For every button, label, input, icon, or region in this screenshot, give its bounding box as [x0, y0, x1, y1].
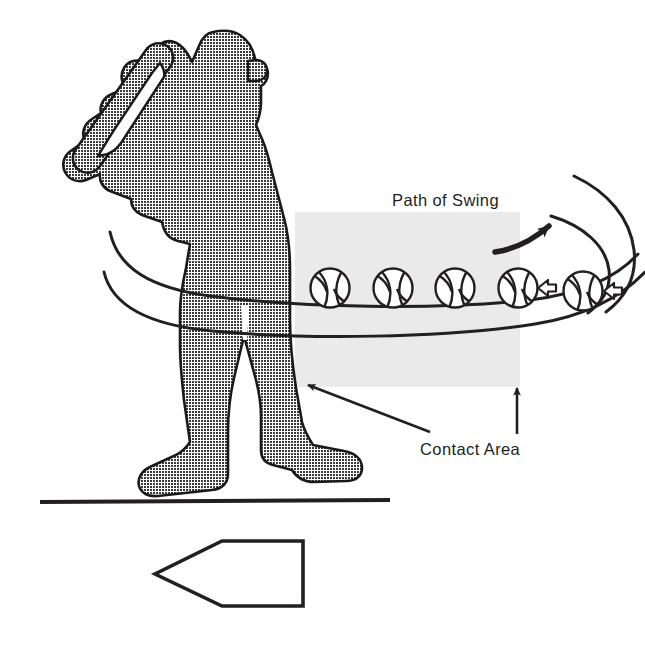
baseball	[436, 269, 475, 309]
baseball-swing-diagram: Path of Swing Contact Area	[0, 0, 645, 654]
baseball	[311, 269, 350, 309]
contact-area-leader-diagonal	[308, 385, 430, 432]
ground-line	[40, 500, 390, 502]
pitch-arrow-left-icon	[538, 280, 556, 296]
helmet-brim	[248, 60, 267, 81]
baseball	[499, 269, 538, 309]
home-plate-outline	[155, 541, 303, 606]
path-of-swing-label: Path of Swing	[392, 191, 499, 209]
baseball	[564, 272, 603, 312]
diagram-canvas: Path of Swing Contact Area	[0, 0, 645, 654]
contact-area-label: Contact Area	[420, 440, 521, 458]
baseball	[374, 269, 413, 309]
